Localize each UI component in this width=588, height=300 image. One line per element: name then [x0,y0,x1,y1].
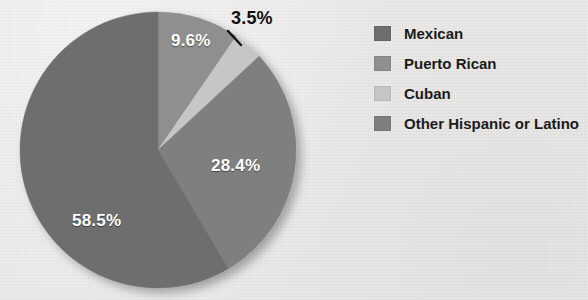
legend-item-cuban[interactable]: Cuban [374,78,584,108]
legend-swatch-puerto-rican [374,56,391,71]
legend-item-puerto-rican[interactable]: Puerto Rican [374,48,584,78]
pie-svg [0,0,340,300]
pie-chart-figure: 9.6% 3.5% 28.4% 58.5% Mexican Puerto Ric… [0,0,588,300]
legend-label-cuban: Cuban [404,85,451,102]
pie-chart: 9.6% 3.5% 28.4% 58.5% [0,0,340,300]
chart-legend: Mexican Puerto Rican Cuban Other Hispani… [374,18,584,138]
slice-label-puerto-rican: 9.6% [171,31,211,51]
legend-item-other-hispanic-or-latino[interactable]: Other Hispanic or Latino [374,108,584,138]
slice-label-other-hispanic-or-latino: 28.4% [211,156,260,176]
legend-swatch-other-hispanic-or-latino [374,116,391,131]
pie-slice-group [20,12,296,288]
legend-swatch-cuban [374,86,391,101]
chart-area: 9.6% 3.5% 28.4% 58.5% Mexican Puerto Ric… [0,0,588,300]
slice-label-cuban: 3.5% [231,8,273,29]
slice-label-mexican: 58.5% [72,211,121,231]
legend-swatch-mexican [374,26,391,41]
legend-label-mexican: Mexican [404,25,463,42]
legend-item-mexican[interactable]: Mexican [374,18,584,48]
legend-label-other-hispanic-or-latino: Other Hispanic or Latino [404,115,579,132]
legend-label-puerto-rican: Puerto Rican [404,55,497,72]
